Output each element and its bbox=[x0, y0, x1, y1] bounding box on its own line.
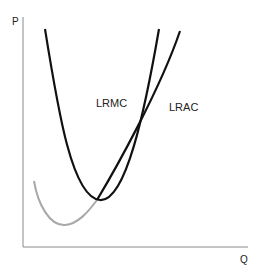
x-axis-label: Q bbox=[240, 254, 248, 265]
lrmc-curve bbox=[45, 29, 159, 200]
lrmc-label: LRMC bbox=[96, 97, 127, 109]
chart-canvas bbox=[0, 0, 263, 277]
lrac-label: LRAC bbox=[169, 101, 198, 113]
y-axis-label: P bbox=[12, 16, 19, 27]
lrac-curve bbox=[97, 31, 180, 200]
lrac-curve-lower-segment bbox=[34, 181, 97, 225]
